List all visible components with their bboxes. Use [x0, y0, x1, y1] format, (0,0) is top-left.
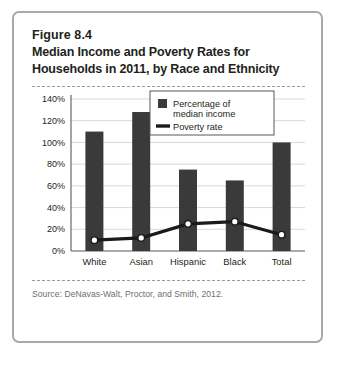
y-tick-label: 40% — [47, 203, 65, 213]
legend-item-label: Percentage of — [173, 99, 231, 109]
chart-plot-area: 0%20%40%60%80%100%120%140% WhiteAsianHis… — [32, 87, 305, 278]
income-poverty-chart: 0%20%40%60%80%100%120%140% WhiteAsianHis… — [32, 87, 309, 278]
chart-legend: Percentage ofmedian incomePoverty rate — [150, 91, 274, 135]
figure-title-line-1: Median Income and Poverty Rates for — [32, 44, 305, 60]
figure-title-line-2: Households in 2011, by Race and Ethnicit… — [32, 61, 305, 77]
bar — [179, 170, 197, 251]
bar — [226, 180, 244, 251]
bar — [85, 132, 103, 251]
data-point-marker — [278, 231, 285, 238]
data-point-marker — [91, 237, 98, 244]
y-tick-label: 0% — [52, 246, 65, 256]
x-tick-label: Total — [272, 256, 292, 267]
source-divider — [32, 280, 305, 281]
legend-item-label: median income — [173, 109, 235, 119]
x-tick-label: Hispanic — [170, 256, 206, 267]
y-tick-label: 100% — [42, 138, 65, 148]
legend-bar-swatch — [158, 99, 167, 108]
x-tick-label: Asian — [129, 256, 152, 267]
source-note: Source: DeNavas-Walt, Proctor, and Smith… — [32, 289, 305, 299]
x-tick-label: White — [82, 256, 106, 267]
figure-number: Figure 8.4 — [32, 27, 305, 43]
y-tick-label: 60% — [47, 181, 65, 191]
x-tick-label: Black — [223, 256, 246, 267]
figure-card: Figure 8.4 Median Income and Poverty Rat… — [12, 11, 323, 343]
y-tick-label: 80% — [47, 159, 65, 169]
data-point-marker — [185, 221, 192, 228]
legend-item-label: Poverty rate — [173, 122, 223, 132]
y-axis-tick-labels: 0%20%40%60%80%100%120%140% — [42, 94, 65, 256]
y-tick-label: 120% — [42, 116, 65, 126]
figure-content: Figure 8.4 Median Income and Poverty Rat… — [14, 13, 321, 341]
bar — [132, 112, 150, 251]
y-tick-label: 140% — [42, 94, 65, 104]
x-axis-category-labels: WhiteAsianHispanicBlackTotal — [82, 256, 291, 267]
data-point-marker — [232, 218, 239, 225]
y-tick-label: 20% — [47, 224, 65, 234]
data-point-marker — [138, 235, 145, 242]
